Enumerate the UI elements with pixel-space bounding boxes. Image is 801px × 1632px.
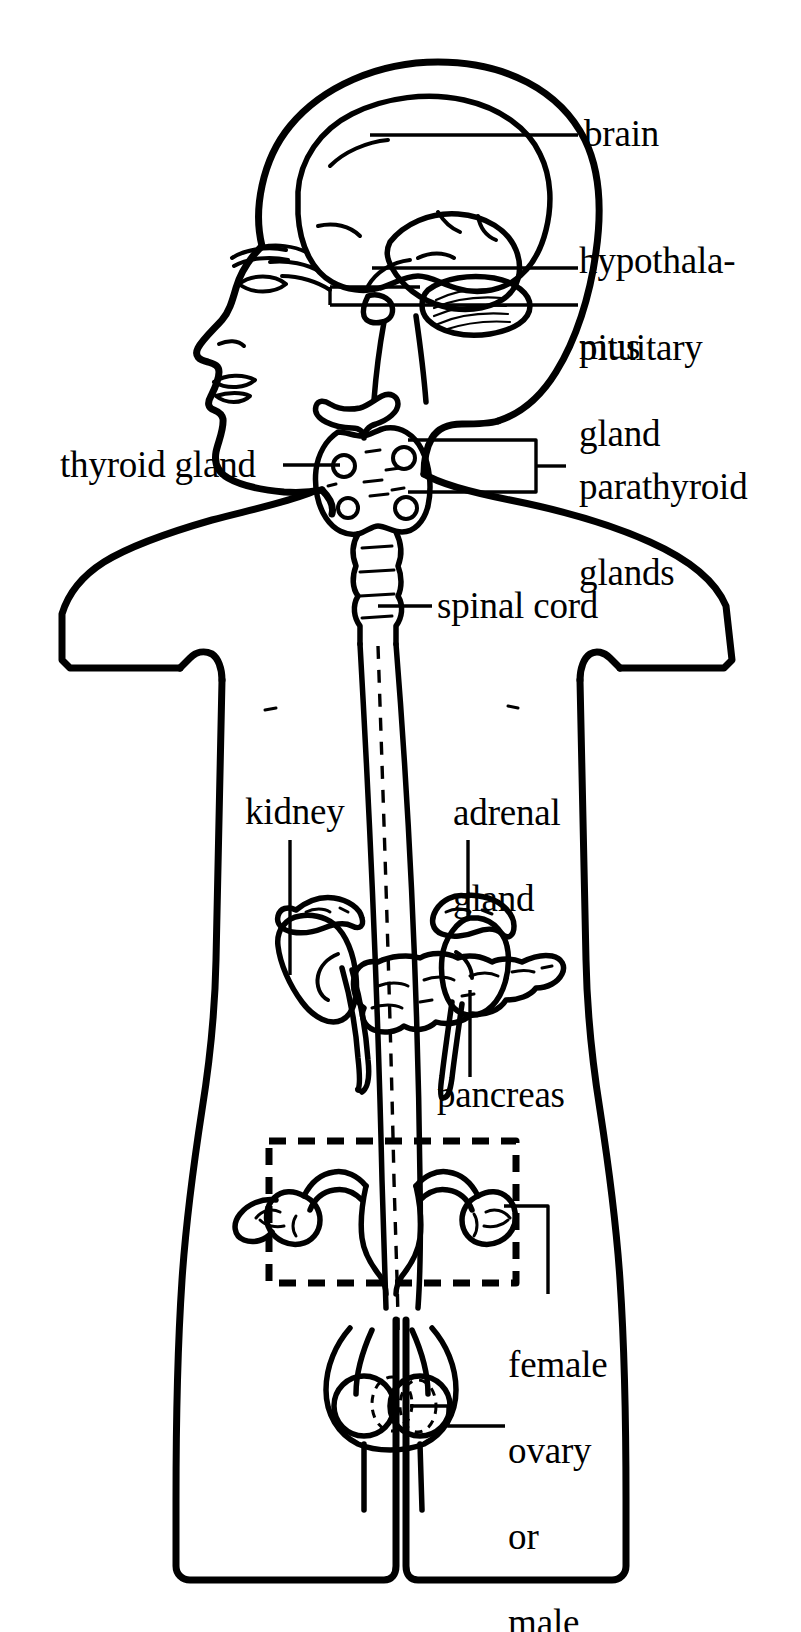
uterus-ovaries [235, 1172, 515, 1294]
label-adrenal-line1: adrenal [453, 792, 560, 833]
label-thyroid-gland: thyroid gland [60, 443, 256, 486]
label-gonad-line2: ovary [508, 1430, 591, 1471]
hypothalamus-pituitary [363, 295, 426, 402]
label-gonad-line4: male [508, 1602, 579, 1632]
label-spinal-cord: spinal cord [437, 584, 598, 627]
face-features [214, 246, 330, 402]
label-kidney: kidney [245, 790, 345, 833]
spinal-cord [360, 644, 420, 1330]
label-adrenal-line2: gland [453, 878, 534, 919]
label-gonad-line1: female [508, 1344, 607, 1385]
scrotum-testes [326, 1328, 456, 1510]
brain [298, 96, 550, 335]
kidney-right [433, 895, 514, 1098]
pancreas [353, 954, 563, 1033]
label-gonad: female ovary or male testis [490, 1300, 608, 1632]
endocrine-system-diagram: brain hypothala- mus pituitary gland par… [0, 0, 801, 1632]
label-brain: brain [584, 112, 659, 155]
label-pancreas: pancreas [437, 1073, 565, 1116]
label-parathyroid-line1: parathyroid [579, 466, 747, 507]
label-adrenal-gland: adrenal gland [435, 748, 561, 920]
label-gonad-line3: or [508, 1516, 538, 1557]
label-pituitary-line1: pituitary [579, 327, 703, 368]
label-hypothalamus-line1: hypothala- [579, 240, 735, 281]
label-parathyroid-glands: parathyroid glands [561, 422, 747, 594]
